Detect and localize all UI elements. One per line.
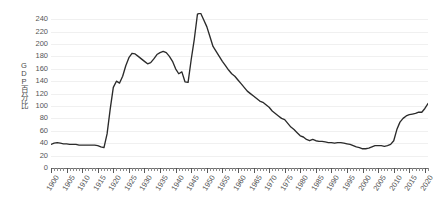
x-axis-minor-tick <box>250 168 251 171</box>
x-axis-minor-tick <box>135 168 136 171</box>
x-axis-minor-tick <box>54 168 55 171</box>
x-axis-minor-tick <box>95 168 96 171</box>
x-axis-major-tick <box>347 168 348 173</box>
x-axis-minor-tick <box>310 168 311 171</box>
x-axis-major-tick <box>316 168 317 173</box>
x-axis-tick-label: 1915 <box>92 174 108 192</box>
x-axis-minor-tick <box>412 168 413 171</box>
x-axis-minor-tick <box>235 168 236 171</box>
x-axis-minor-tick <box>85 168 86 171</box>
x-axis-minor-tick <box>313 168 314 171</box>
y-axis-tick-label: 60 <box>26 127 48 135</box>
x-axis-minor-tick <box>372 168 373 171</box>
x-axis-tick-label: 1905 <box>61 174 77 192</box>
x-axis-tick-label: 2020 <box>419 174 435 192</box>
x-axis-minor-tick <box>92 168 93 171</box>
x-axis-minor-tick <box>400 168 401 171</box>
x-axis-minor-tick <box>335 168 336 171</box>
x-axis-minor-tick <box>356 168 357 171</box>
x-axis-minor-tick <box>182 168 183 171</box>
x-axis-minor-tick <box>244 168 245 171</box>
x-axis-minor-tick <box>294 168 295 171</box>
x-axis-major-tick <box>51 168 52 173</box>
x-axis-tick-label: 1950 <box>201 174 217 192</box>
x-axis-minor-tick <box>188 168 189 171</box>
x-axis-minor-tick <box>229 168 230 171</box>
x-axis-minor-tick <box>375 168 376 171</box>
y-axis-tick-label: 160 <box>26 65 48 73</box>
y-axis-tick-label: 100 <box>26 102 48 110</box>
x-axis-minor-tick <box>157 168 158 171</box>
x-axis-tick-label: 1975 <box>279 174 295 192</box>
x-axis-minor-tick <box>325 168 326 171</box>
x-axis-minor-tick <box>116 168 117 171</box>
x-axis-minor-tick <box>216 168 217 171</box>
x-axis-minor-tick <box>201 168 202 171</box>
x-axis-minor-tick <box>132 168 133 171</box>
y-axis-tick-label: 220 <box>26 28 48 36</box>
x-axis-major-tick <box>425 168 426 173</box>
x-axis-minor-tick <box>428 168 429 171</box>
x-axis-tick-label: 1990 <box>326 174 342 192</box>
x-axis-minor-tick <box>278 168 279 171</box>
x-axis-tick-label: 2010 <box>388 174 404 192</box>
x-axis-major-tick <box>222 168 223 173</box>
y-axis-tick-label: 180 <box>26 53 48 61</box>
x-axis-tick-label: 1945 <box>185 174 201 192</box>
x-axis-minor-tick <box>241 168 242 171</box>
x-axis-minor-tick <box>57 168 58 171</box>
x-axis-minor-tick <box>123 168 124 171</box>
x-axis-minor-tick <box>213 168 214 171</box>
y-axis-tick-label: 240 <box>26 15 48 23</box>
x-axis-major-tick <box>300 168 301 173</box>
x-axis-minor-tick <box>247 168 248 171</box>
x-axis-tick-label: 1970 <box>263 174 279 192</box>
x-axis-minor-tick <box>288 168 289 171</box>
x-axis-minor-tick <box>138 168 139 171</box>
x-axis-minor-tick <box>219 168 220 171</box>
x-axis-minor-tick <box>263 168 264 171</box>
x-axis-tick-label: 1925 <box>123 174 139 192</box>
x-axis-tick-label: 1965 <box>248 174 264 192</box>
x-axis-major-tick <box>285 168 286 173</box>
x-axis-major-tick <box>191 168 192 173</box>
x-axis-minor-tick <box>88 168 89 171</box>
x-axis-minor-tick <box>338 168 339 171</box>
x-axis-minor-tick <box>151 168 152 171</box>
x-axis-minor-tick <box>60 168 61 171</box>
x-axis-minor-tick <box>73 168 74 171</box>
x-axis-minor-tick <box>353 168 354 171</box>
x-axis-minor-tick <box>110 168 111 171</box>
x-axis-minor-tick <box>328 168 329 171</box>
x-axis-minor-tick <box>173 168 174 171</box>
x-axis-major-tick <box>378 168 379 173</box>
x-axis-major-tick <box>82 168 83 173</box>
x-axis-minor-tick <box>169 168 170 171</box>
x-axis-major-tick <box>160 168 161 173</box>
x-axis-minor-tick <box>232 168 233 171</box>
x-axis-tick-label: 1995 <box>341 174 357 192</box>
x-axis-minor-tick <box>306 168 307 171</box>
x-axis-minor-tick <box>63 168 64 171</box>
x-axis-minor-tick <box>107 168 108 171</box>
x-axis-minor-tick <box>369 168 370 171</box>
x-axis-major-tick <box>394 168 395 173</box>
x-axis-minor-tick <box>319 168 320 171</box>
x-axis-minor-tick <box>272 168 273 171</box>
x-axis-minor-tick <box>163 168 164 171</box>
x-axis-major-tick <box>269 168 270 173</box>
x-axis-major-tick <box>331 168 332 173</box>
x-axis-tick-label: 1935 <box>154 174 170 192</box>
x-axis-minor-tick <box>197 168 198 171</box>
x-axis-tick-label: 1940 <box>170 174 186 192</box>
y-axis-tick-label: 120 <box>26 90 48 98</box>
x-axis-minor-tick <box>303 168 304 171</box>
x-axis-tick-label: 2000 <box>357 174 373 192</box>
x-axis-minor-tick <box>381 168 382 171</box>
data-series-line <box>51 13 428 168</box>
x-axis-minor-tick <box>416 168 417 171</box>
x-axis-minor-tick <box>185 168 186 171</box>
x-axis-minor-tick <box>225 168 226 171</box>
x-axis-minor-tick <box>282 168 283 171</box>
